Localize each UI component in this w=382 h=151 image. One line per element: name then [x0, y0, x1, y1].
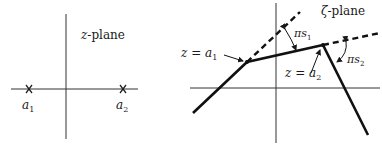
point-a1-label: a1	[22, 98, 34, 114]
angle-label-pi-s2: πs2	[346, 53, 364, 68]
arrow-to-a1	[224, 55, 243, 61]
vertex-a2-label: z = a2	[284, 66, 321, 82]
point-a2-label: a2	[116, 98, 128, 114]
vertex-a1-dot	[245, 60, 249, 64]
polygon-boundary	[193, 45, 368, 135]
extension-dashed-1	[247, 12, 300, 62]
angle-label-pi-s1: πs1	[293, 27, 311, 42]
extension-dashed-2	[323, 33, 380, 45]
angle-arc-2	[337, 41, 346, 62]
vertex-a1-label: z = a1	[180, 46, 217, 62]
vertex-a2-dot	[321, 43, 325, 47]
z-plane-title: z-plane	[80, 28, 125, 42]
zeta-plane-title: ζ-plane	[321, 4, 365, 18]
conformal-map-diagram: a1 a2 z-plane z = a1 z = a2	[0, 0, 382, 151]
zeta-plane-panel: z = a1 z = a2 πs1 πs2 ζ-plane	[180, 3, 380, 143]
z-plane-panel: a1 a2 z-plane	[11, 14, 138, 139]
